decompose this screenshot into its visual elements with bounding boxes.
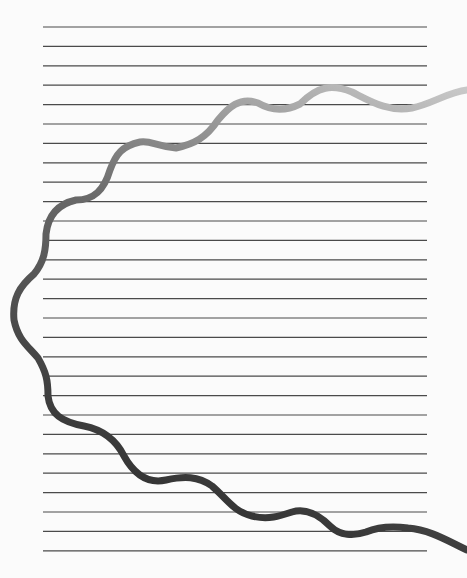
paper-background xyxy=(0,0,467,578)
lined-paper-illustration xyxy=(0,0,467,578)
